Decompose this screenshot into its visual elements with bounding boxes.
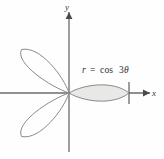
equation-variable: r xyxy=(82,65,86,75)
x-axis-label: x xyxy=(151,88,156,98)
polar-rose-figure: x y r = cos 3 θ xyxy=(0,0,164,159)
equation-angle-symbol: θ xyxy=(124,65,129,75)
equation-annotation: r = cos 3 θ xyxy=(82,65,129,75)
equation-operator: = xyxy=(90,65,96,75)
figure-background xyxy=(0,0,164,159)
figure-canvas: x y r = cos 3 θ xyxy=(0,0,164,159)
y-axis-label: y xyxy=(64,2,69,12)
equation-function: cos xyxy=(100,65,113,75)
